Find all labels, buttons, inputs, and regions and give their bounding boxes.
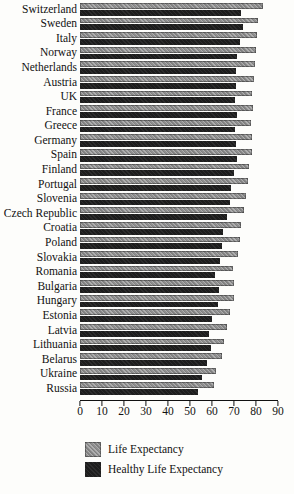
life-expectancy-bar bbox=[80, 105, 253, 111]
country-row: Russia bbox=[0, 381, 278, 396]
life-expectancy-swatch-icon bbox=[85, 442, 101, 457]
life-expectancy-bar bbox=[80, 368, 216, 374]
bar-rows: SwitzerlandSwedenItalyNorwayNetherlandsA… bbox=[0, 2, 278, 396]
life-expectancy-bar bbox=[80, 251, 238, 257]
country-label: Russia bbox=[0, 383, 80, 395]
country-label: Slovakia bbox=[0, 252, 80, 264]
healthy-life-expectancy-bar bbox=[80, 170, 234, 176]
life-expectancy-bar bbox=[80, 120, 251, 126]
life-expectancy-bar bbox=[80, 339, 224, 345]
healthy-life-expectancy-bar bbox=[80, 127, 235, 133]
country-row: Germany bbox=[0, 133, 278, 148]
healthy-life-expectancy-bar bbox=[80, 389, 198, 395]
life-expectancy-bar bbox=[80, 91, 252, 97]
life-expectancy-bar bbox=[80, 237, 240, 243]
country-bars bbox=[80, 133, 278, 148]
country-label: Bulgaria bbox=[0, 281, 80, 293]
country-label: Hungary bbox=[0, 295, 80, 307]
country-row: Bulgaria bbox=[0, 279, 278, 294]
life-expectancy-bar bbox=[80, 178, 248, 184]
country-label: Slovenia bbox=[0, 193, 80, 205]
healthy-life-expectancy-bar bbox=[80, 360, 207, 366]
axis-tick-label: 20 bbox=[118, 406, 130, 418]
healthy-life-expectancy-bar bbox=[80, 54, 237, 60]
country-bars bbox=[80, 221, 278, 236]
legend-item-life-expectancy: Life Expectancy bbox=[85, 442, 223, 457]
healthy-life-expectancy-bar bbox=[80, 316, 212, 322]
country-bars bbox=[80, 31, 278, 46]
life-expectancy-bar bbox=[80, 193, 246, 199]
axis-tick-label: 60 bbox=[206, 406, 218, 418]
country-label: Switzerland bbox=[0, 4, 80, 16]
country-bars bbox=[80, 279, 278, 294]
country-row: UK bbox=[0, 90, 278, 105]
country-label: Finland bbox=[0, 164, 80, 176]
life-expectancy-bar bbox=[80, 3, 263, 9]
country-label: UK bbox=[0, 91, 80, 103]
healthy-life-expectancy-bar bbox=[80, 112, 237, 118]
country-bars bbox=[80, 206, 278, 221]
country-label: Poland bbox=[0, 237, 80, 249]
country-label: Greece bbox=[0, 120, 80, 132]
axis-tick-label: 10 bbox=[96, 406, 108, 418]
healthy-life-expectancy-bar bbox=[80, 243, 222, 249]
healthy-life-expectancy-bar bbox=[80, 214, 227, 220]
country-bars bbox=[80, 381, 278, 396]
life-expectancy-bar bbox=[80, 324, 227, 330]
country-label: Belarus bbox=[0, 354, 80, 366]
country-bars bbox=[80, 323, 278, 338]
country-bars bbox=[80, 294, 278, 309]
country-label: Czech Republic bbox=[0, 208, 80, 220]
life-expectancy-bar bbox=[80, 353, 222, 359]
healthy-life-expectancy-bar bbox=[80, 258, 220, 264]
axis-tick-label: 40 bbox=[162, 406, 174, 418]
healthy-life-expectancy-bar bbox=[80, 345, 211, 351]
life-expectancy-bar bbox=[80, 222, 241, 228]
life-expectancy-bar bbox=[80, 280, 234, 286]
life-expectancy-bar bbox=[80, 309, 230, 315]
country-bars bbox=[80, 148, 278, 163]
axis-tick-label: 70 bbox=[228, 406, 240, 418]
life-expectancy-bar bbox=[80, 32, 257, 38]
country-bars bbox=[80, 119, 278, 134]
life-expectancy-bar bbox=[80, 134, 252, 140]
country-label: Ukraine bbox=[0, 368, 80, 380]
country-bars bbox=[80, 352, 278, 367]
country-row: Austria bbox=[0, 75, 278, 90]
country-row: Estonia bbox=[0, 308, 278, 323]
axis-tick-label: 0 bbox=[77, 406, 83, 418]
country-bars bbox=[80, 338, 278, 353]
country-bars bbox=[80, 367, 278, 382]
country-row: Greece bbox=[0, 119, 278, 134]
axis-tick-label: 90 bbox=[272, 406, 284, 418]
country-row: Latvia bbox=[0, 323, 278, 338]
country-bars bbox=[80, 75, 278, 90]
country-row: Portugal bbox=[0, 177, 278, 192]
healthy-life-expectancy-bar bbox=[80, 375, 202, 381]
life-expectancy-bar bbox=[80, 61, 255, 67]
country-label: Spain bbox=[0, 149, 80, 161]
country-row: Italy bbox=[0, 31, 278, 46]
country-row: Romania bbox=[0, 265, 278, 280]
healthy-life-expectancy-bar bbox=[80, 272, 215, 278]
country-bars bbox=[80, 90, 278, 105]
legend-label: Life Expectancy bbox=[108, 443, 184, 456]
country-row: Spain bbox=[0, 148, 278, 163]
healthy-life-expectancy-bar bbox=[80, 97, 235, 103]
healthy-life-expectancy-bar bbox=[80, 287, 219, 293]
country-label: Austria bbox=[0, 77, 80, 89]
country-row: Czech Republic bbox=[0, 206, 278, 221]
country-row: Netherlands bbox=[0, 60, 278, 75]
country-row: Ukraine bbox=[0, 367, 278, 382]
country-row: Croatia bbox=[0, 221, 278, 236]
healthy-life-expectancy-bar bbox=[80, 10, 241, 16]
country-row: Slovenia bbox=[0, 192, 278, 207]
healthy-life-expectancy-bar bbox=[80, 331, 209, 337]
country-label: France bbox=[0, 106, 80, 118]
healthy-life-expectancy-bar bbox=[80, 68, 236, 74]
country-row: Sweden bbox=[0, 17, 278, 32]
x-axis-tick-labels: 0102030405060708090 bbox=[80, 406, 278, 420]
country-label: Sweden bbox=[0, 18, 80, 30]
country-row: Finland bbox=[0, 163, 278, 178]
country-bars bbox=[80, 46, 278, 61]
